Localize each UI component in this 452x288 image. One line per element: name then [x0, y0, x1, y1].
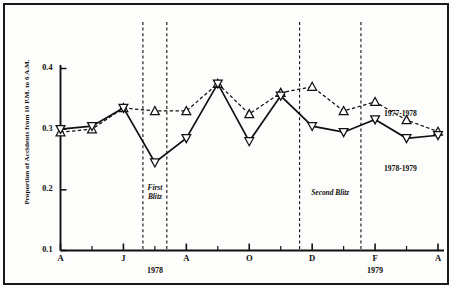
y-tick-label-1: 0.2 — [31, 184, 53, 193]
series-1978-1979 — [56, 80, 442, 167]
x-tick-label-4: D — [302, 253, 322, 263]
y-tick-label-0: 0.1 — [31, 245, 53, 254]
data-point-marker-1978-1979-3 — [150, 159, 159, 167]
series-line-1978-1979 — [61, 84, 439, 163]
data-point-marker-1978-1979-9 — [339, 129, 348, 137]
annotation-first-blitz: First Blitz — [135, 183, 175, 201]
line-chart — [0, 0, 452, 288]
series-line-1977-1978 — [61, 84, 439, 133]
year-label-1979: 1979 — [355, 266, 395, 275]
x-tick-label-1: J — [113, 253, 133, 263]
plot-area — [0, 0, 452, 288]
x-tick-label-2: A — [176, 253, 196, 263]
year-label-1978: 1978 — [135, 266, 175, 275]
series-1977-1978 — [56, 79, 442, 136]
figure-panel: Proportion of Accidents from 10 P.M. to … — [0, 0, 452, 288]
x-tick-label-0: A — [51, 253, 71, 263]
x-tick-label-5: F — [365, 253, 385, 263]
y-tick-label-2: 0.3 — [31, 124, 53, 133]
series-label-1977-1978: 1977-1978 — [384, 109, 417, 118]
data-point-marker-1977-1978-6 — [245, 110, 254, 118]
data-point-marker-1977-1978-3 — [150, 107, 159, 115]
annotation-second-blitz: Second Blitz — [290, 188, 370, 197]
series-label-1978-1979: 1978-1979 — [384, 164, 417, 173]
data-point-marker-1977-1978-10 — [371, 97, 380, 105]
data-point-marker-1977-1978-8 — [308, 82, 317, 90]
x-tick-label-3: O — [239, 253, 259, 263]
y-tick-label-3: 0.4 — [31, 63, 53, 72]
x-tick-label-6: A — [428, 253, 448, 263]
data-point-marker-1978-1979-6 — [245, 138, 254, 146]
